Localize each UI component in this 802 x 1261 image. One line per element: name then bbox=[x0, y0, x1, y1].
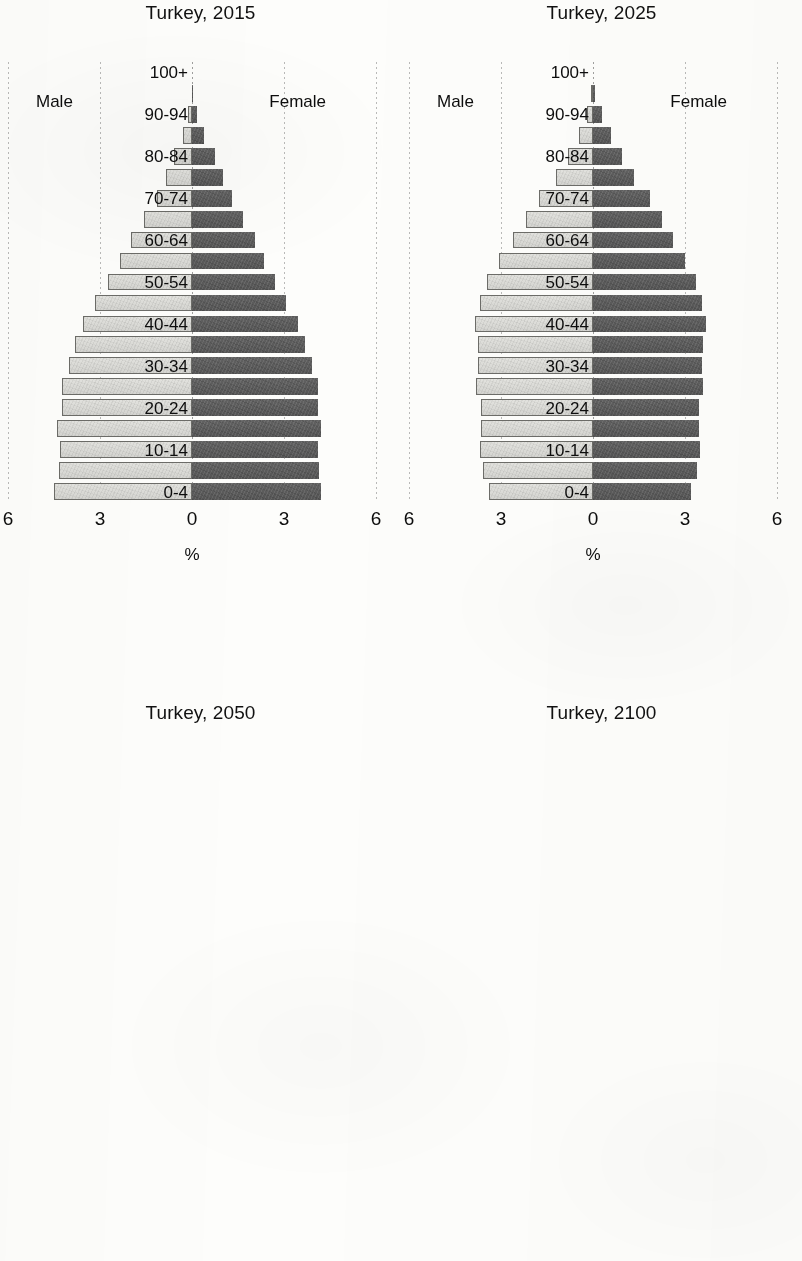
age-group-label: 100+ bbox=[150, 64, 188, 81]
bar-male bbox=[166, 169, 192, 186]
pyramid-panel-2100: Turkey, 2100 0-410-1420-2430-3440-4450-5… bbox=[401, 630, 802, 1261]
bar-female bbox=[593, 190, 650, 207]
bar-female bbox=[593, 462, 697, 479]
bar-male bbox=[478, 336, 593, 353]
pyramid-row bbox=[409, 274, 777, 291]
bar-female bbox=[192, 357, 312, 374]
x-axis-title-2025: % bbox=[401, 545, 785, 565]
bar-female bbox=[192, 190, 232, 207]
bar-female bbox=[192, 336, 305, 353]
bar-female bbox=[593, 169, 634, 186]
bar-female bbox=[593, 420, 699, 437]
legend-label-female: Female bbox=[670, 92, 727, 112]
pyramid-row bbox=[409, 253, 777, 270]
age-group-label: 70-74 bbox=[546, 190, 589, 207]
bar-male bbox=[480, 295, 593, 312]
pyramid-panel-2025: Turkey, 2025 0-410-1420-2430-3440-4450-5… bbox=[401, 0, 802, 600]
pyramid-row bbox=[409, 316, 777, 333]
bar-male bbox=[144, 211, 192, 228]
age-group-label: 80-84 bbox=[546, 148, 589, 165]
age-group-label: 90-94 bbox=[145, 106, 188, 123]
bar-female bbox=[192, 127, 204, 144]
pyramid-row bbox=[409, 336, 777, 353]
bar-female bbox=[192, 148, 215, 165]
bar-male bbox=[75, 336, 192, 353]
bar-male bbox=[481, 420, 593, 437]
bar-male bbox=[499, 253, 593, 270]
bar-male bbox=[62, 378, 192, 395]
x-tick-label: 3 bbox=[95, 508, 106, 530]
bar-female bbox=[593, 127, 611, 144]
pyramid-row bbox=[8, 211, 376, 228]
age-group-label: 100+ bbox=[551, 64, 589, 81]
plot-area-2015: 0-410-1420-2430-3440-4450-5460-6470-7480… bbox=[8, 62, 376, 502]
x-tick-label: 0 bbox=[187, 508, 198, 530]
bar-female bbox=[593, 483, 691, 500]
age-group-label: 20-24 bbox=[546, 399, 589, 416]
x-tick-label: 6 bbox=[3, 508, 14, 530]
legend-label-male: Male bbox=[36, 92, 73, 112]
pyramid-row bbox=[8, 148, 376, 165]
age-group-label: 90-94 bbox=[546, 106, 589, 123]
chart-title-2025: Turkey, 2025 bbox=[401, 2, 802, 24]
pyramid-row bbox=[409, 190, 777, 207]
pyramid-row bbox=[409, 64, 777, 81]
age-group-label: 0-4 bbox=[163, 483, 188, 500]
age-group-label: 70-74 bbox=[145, 190, 188, 207]
legend-label-male: Male bbox=[437, 92, 474, 112]
age-group-label: 30-34 bbox=[546, 357, 589, 374]
pyramid-row bbox=[409, 399, 777, 416]
bar-male bbox=[59, 462, 192, 479]
pyramid-row bbox=[8, 420, 376, 437]
bar-female bbox=[593, 357, 702, 374]
age-group-label: 30-34 bbox=[145, 357, 188, 374]
bar-female bbox=[593, 295, 702, 312]
pyramid-row bbox=[409, 441, 777, 458]
bar-female bbox=[593, 399, 699, 416]
bar-male bbox=[120, 253, 192, 270]
bar-male bbox=[476, 378, 593, 395]
pyramid-figure-grid: Turkey, 2015 0-410-1420-2430-3440-4450-5… bbox=[0, 0, 802, 1261]
pyramid-row bbox=[409, 462, 777, 479]
bar-female bbox=[192, 85, 193, 102]
plot-area-2025: 0-410-1420-2430-3440-4450-5460-6470-7480… bbox=[409, 62, 777, 502]
pyramid-row bbox=[8, 462, 376, 479]
pyramid-row bbox=[8, 295, 376, 312]
bar-male bbox=[556, 169, 593, 186]
pyramid-row bbox=[8, 336, 376, 353]
bar-female bbox=[192, 106, 197, 123]
bar-female bbox=[593, 316, 706, 333]
bar-female bbox=[192, 253, 264, 270]
chart-title-2050: Turkey, 2050 bbox=[0, 702, 401, 724]
x-tick-label: 0 bbox=[588, 508, 599, 530]
x-tick-label: 6 bbox=[404, 508, 415, 530]
bar-female bbox=[593, 106, 602, 123]
pyramid-row bbox=[8, 190, 376, 207]
pyramid-row bbox=[409, 420, 777, 437]
chart-title-2015: Turkey, 2015 bbox=[0, 2, 401, 24]
x-axis-title-2015: % bbox=[0, 545, 384, 565]
pyramid-panel-2050: Turkey, 2050 0-410-1420-2430-3440-4450-5… bbox=[0, 630, 401, 1261]
bar-female bbox=[192, 441, 318, 458]
bar-female bbox=[593, 274, 696, 291]
pyramid-row bbox=[409, 378, 777, 395]
pyramid-row bbox=[8, 483, 376, 500]
age-group-label: 40-44 bbox=[546, 315, 589, 332]
age-group-label: 80-84 bbox=[145, 148, 188, 165]
bar-male bbox=[57, 420, 192, 437]
x-tick-label: 3 bbox=[496, 508, 507, 530]
age-group-label: 60-64 bbox=[145, 232, 188, 249]
pyramid-row bbox=[8, 357, 376, 374]
bar-female bbox=[593, 148, 622, 165]
bar-female bbox=[192, 274, 275, 291]
gridline bbox=[777, 62, 778, 502]
bar-male bbox=[95, 295, 192, 312]
pyramid-row bbox=[8, 253, 376, 270]
pyramid-panel-2015: Turkey, 2015 0-410-1420-2430-3440-4450-5… bbox=[0, 0, 401, 600]
bar-female bbox=[192, 316, 298, 333]
bar-male bbox=[579, 127, 593, 144]
bar-female bbox=[192, 211, 243, 228]
age-group-label: 20-24 bbox=[145, 399, 188, 416]
pyramid-row bbox=[409, 169, 777, 186]
gridline bbox=[376, 62, 377, 502]
